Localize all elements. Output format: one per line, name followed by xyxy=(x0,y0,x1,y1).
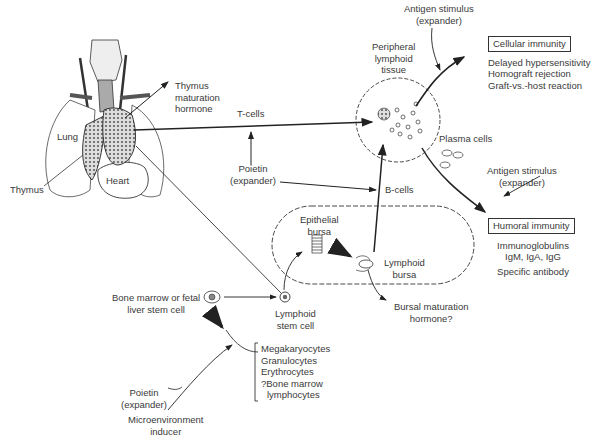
list-item: Specific antibody xyxy=(488,266,578,278)
heart-label: Heart xyxy=(106,175,129,187)
label-line: hormone xyxy=(175,103,220,115)
label-line: Bursal maturation xyxy=(394,301,468,313)
label-line: Microenvironment xyxy=(128,414,204,426)
label-line: (expander) xyxy=(404,15,474,27)
label-line: liver stem cell xyxy=(112,304,200,316)
label-line: bursa xyxy=(384,269,425,281)
lymphoid-stem-cell-label: Lymphoid stem cell xyxy=(275,308,316,331)
humoral-immunity-items: Immunoglobulins IgM, IgA, IgG Specific a… xyxy=(488,240,578,278)
label-line: Epithelial xyxy=(300,214,339,226)
b-cells-label: B-cells xyxy=(385,184,414,196)
cellular-immunity-items: Delayed hypersensitivity Homograft rejec… xyxy=(488,57,590,92)
label-line: hormone? xyxy=(394,313,468,325)
list-item: Erythrocytes xyxy=(261,366,330,378)
bursal-maturation-hormone-label: Bursal maturation hormone? xyxy=(394,301,468,324)
antigen-stimulus-top-label: Antigen stimulus (expander) xyxy=(404,3,474,26)
humoral-immunity-panel: Humoral immunity Immunoglobulins IgM, Ig… xyxy=(488,215,578,277)
lung-label: Lung xyxy=(57,131,78,143)
bone-marrow-stem-cell-label: Bone marrow or fetal liver stem cell xyxy=(112,292,200,315)
list-item: IgM, IgA, IgG xyxy=(488,251,578,263)
label-line: Lymphoid xyxy=(384,257,425,269)
list-item: Homograft rejection xyxy=(488,68,590,80)
label-line: stem cell xyxy=(275,320,316,332)
label-line: Lymphoid xyxy=(275,308,316,320)
label-line: Antigen stimulus xyxy=(487,165,557,177)
humoral-immunity-title: Humoral immunity xyxy=(488,218,575,234)
label-line: tissue xyxy=(372,64,415,76)
label-line: Poietin xyxy=(230,163,276,175)
poietin-lower-label: Poietin (expander) xyxy=(121,387,167,410)
list-item: Immunoglobulins xyxy=(488,240,578,252)
microenvironment-inducer-label: Microenvironment inducer xyxy=(128,414,204,437)
antigen-stimulus-right-label: Antigen stimulus (expander) xyxy=(487,165,557,188)
cellular-immunity-panel: Cellular immunity Delayed hypersensitivi… xyxy=(488,33,590,91)
label-line: (expander) xyxy=(230,175,276,187)
list-item: lymphocytes xyxy=(261,389,330,401)
other-lineages-list: Megakaryocytes Granulocytes Erythrocytes… xyxy=(261,343,330,401)
list-item: Megakaryocytes xyxy=(261,343,330,355)
thymus-label: Thymus xyxy=(10,184,44,196)
plasma-cells-label: Plasma cells xyxy=(439,133,492,145)
poietin-upper-label: Poietin (expander) xyxy=(230,163,276,186)
list-item: ?Bone marrow xyxy=(261,378,330,390)
list-item: Granulocytes xyxy=(261,355,330,367)
thymus-maturation-hormone-label: Thymus maturation hormone xyxy=(175,80,220,115)
label-line: (expander) xyxy=(487,177,557,189)
list-item: Graft-vs.-host reaction xyxy=(488,80,590,92)
label-line: Antigen stimulus xyxy=(404,3,474,15)
label-line: Poietin xyxy=(121,387,167,399)
label-line: lymphoid xyxy=(372,53,415,65)
label-line: Bone marrow or fetal xyxy=(112,292,200,304)
lymphoid-bursa-label: Lymphoid bursa xyxy=(384,257,425,280)
label-line: bursa xyxy=(300,226,339,238)
epithelial-bursa-label: Epithelial bursa xyxy=(300,214,339,237)
label-line: (expander) xyxy=(121,399,167,411)
label-line: Peripheral xyxy=(372,41,415,53)
thorax-illustration xyxy=(46,40,164,198)
label-line: maturation xyxy=(175,92,220,104)
t-cells-label: T-cells xyxy=(237,108,264,120)
peripheral-lymphoid-tissue-label: Peripheral lymphoid tissue xyxy=(372,41,415,76)
label-line: Thymus xyxy=(175,80,220,92)
cellular-immunity-title: Cellular immunity xyxy=(488,36,571,52)
list-item: Delayed hypersensitivity xyxy=(488,57,590,69)
label-line: inducer xyxy=(128,426,204,438)
